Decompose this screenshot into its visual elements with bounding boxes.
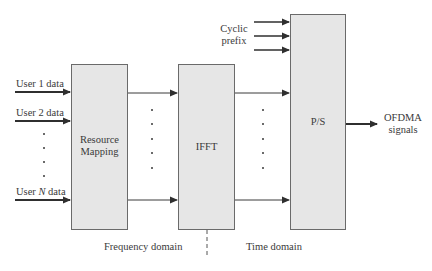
cyclic-prefix-arrows (254, 22, 289, 50)
input-ellipsis-dots (43, 133, 45, 177)
rm-to-ifft-arrows (128, 93, 177, 200)
ps-label: P/S (290, 116, 346, 128)
cyclic-prefix-label: Cyclic prefix (214, 23, 254, 47)
output-label: OFDMA signals (380, 112, 426, 136)
ifft-ps-ellipsis-dots (262, 109, 264, 169)
frequency-domain-label: Frequency domain (104, 241, 182, 253)
resource-mapping-label: Resource Mapping (71, 134, 128, 158)
rm-ifft-ellipsis-dots (151, 109, 153, 169)
ifft-to-ps-arrows (235, 93, 289, 200)
input-label-user-1: User 1 data (16, 78, 64, 90)
ifft-label: IFFT (178, 141, 235, 153)
input-label-user-2: User 2 data (16, 107, 64, 119)
time-domain-label: Time domain (246, 241, 302, 253)
input-label-user-n: User N data (16, 186, 66, 198)
